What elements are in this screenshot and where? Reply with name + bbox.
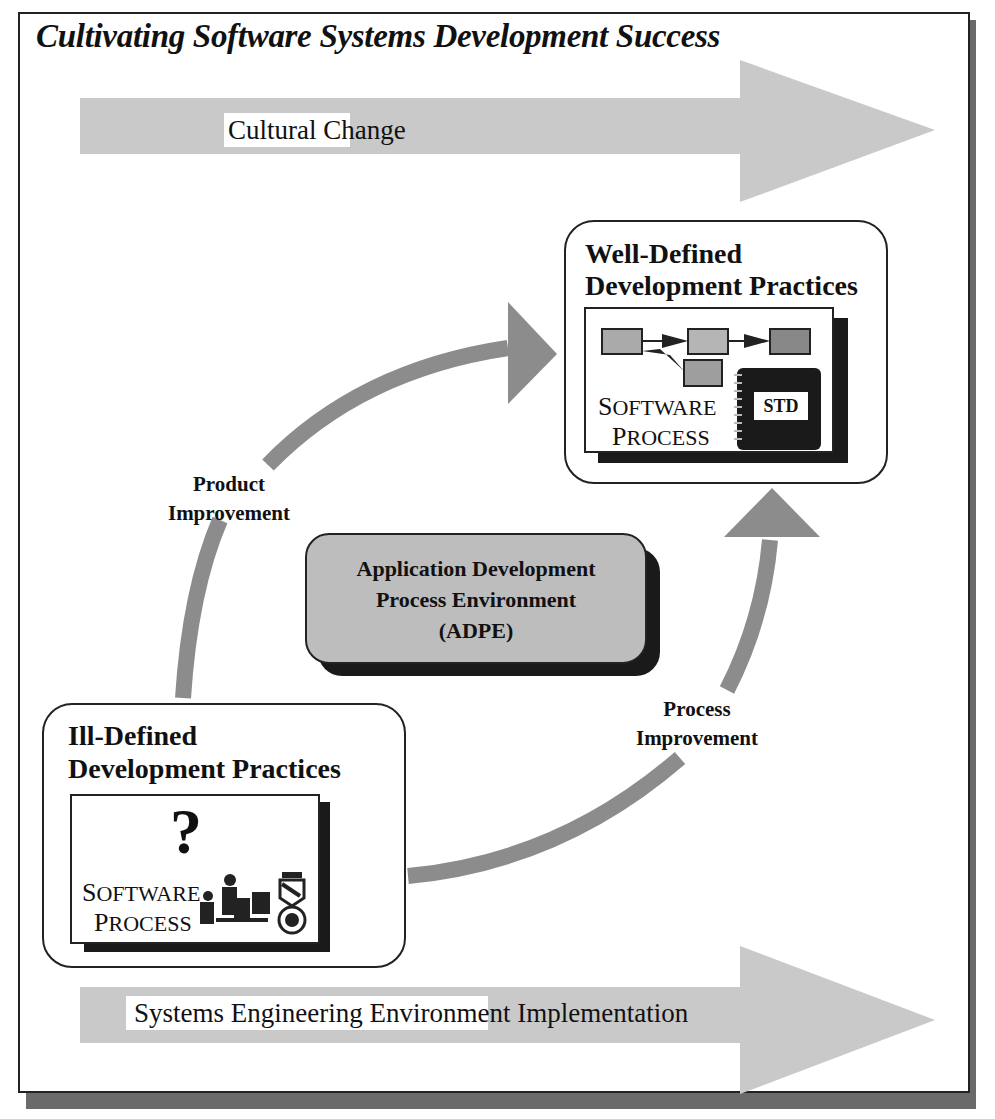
- well-defined-process-label: PROCESS: [612, 422, 710, 453]
- software-rest: OFTWARE: [96, 881, 200, 906]
- process-improvement-arc: [408, 758, 680, 876]
- software-cap: S: [598, 392, 612, 421]
- product-improvement-line2: Improvement: [156, 499, 302, 528]
- ill-defined-process-label: PROCESS: [94, 908, 192, 939]
- process-improvement-line2: Improvement: [622, 724, 772, 753]
- people-at-computers-icon: [194, 870, 314, 936]
- product-arrowhead: [508, 302, 557, 404]
- process-cap: P: [94, 908, 108, 937]
- software-rest: OFTWARE: [612, 395, 716, 420]
- ill-defined-software-label: SOFTWARE: [82, 878, 200, 909]
- well-defined-title-line2: Development Practices: [585, 270, 858, 302]
- process-cap: P: [612, 422, 626, 451]
- process-improvement-label: Process Improvement: [622, 695, 772, 753]
- diagram-title: Cultivating Software Systems Development…: [36, 18, 720, 55]
- cultural-change-label: Cultural Change: [224, 113, 350, 147]
- ill-defined-title-line1: Ill-Defined: [68, 720, 197, 752]
- adpe-line3: (ADPE): [307, 615, 645, 646]
- adpe-box: Application Development Process Environm…: [305, 533, 647, 664]
- well-defined-software-label: SOFTWARE: [598, 392, 716, 423]
- process-rest: ROCESS: [626, 425, 709, 450]
- adpe-line2: Process Environment: [307, 584, 645, 615]
- question-mark-icon: ?: [170, 800, 202, 864]
- product-improvement-label: Product Improvement: [156, 470, 302, 528]
- cultural-change-arrow: [80, 60, 935, 202]
- process-improvement-line1: Process: [622, 695, 772, 724]
- software-cap: S: [82, 878, 96, 907]
- process-rest: ROCESS: [108, 911, 191, 936]
- adpe-line1: Application Development: [307, 553, 645, 584]
- product-improvement-arc: [183, 520, 220, 698]
- ill-defined-title-line2: Development Practices: [68, 753, 341, 785]
- process-arrowhead: [724, 488, 820, 537]
- std-label: STD: [754, 392, 808, 420]
- product-improvement-line1: Product: [156, 470, 302, 499]
- see-implementation-label: Systems Engineering Environment Implemen…: [126, 996, 488, 1030]
- spiral-binding-icon: [732, 370, 744, 450]
- well-defined-title-line1: Well-Defined: [585, 238, 742, 270]
